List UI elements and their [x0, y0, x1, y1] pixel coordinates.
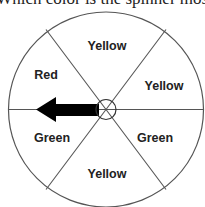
section-label-lower-right: Green: [137, 131, 173, 145]
section-label-upper-right: Yellow: [145, 79, 184, 93]
spinner: Yellow Yellow Green Yellow Green Red: [0, 0, 205, 207]
section-label-lower-left: Green: [34, 131, 70, 145]
section-label-upper-left: Red: [34, 68, 58, 82]
section-label-bottom: Yellow: [88, 167, 127, 181]
section-label-top: Yellow: [88, 39, 127, 53]
pointer-arrow-icon[interactable]: [36, 97, 99, 122]
